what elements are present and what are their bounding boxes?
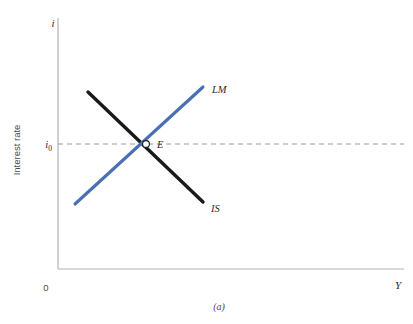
chart-canvas: i Y 0 i0 LM IS E Interest rate (a) — [0, 0, 413, 324]
i0-tick-label: i0 — [45, 139, 52, 153]
is-lm-figure: i Y 0 i0 LM IS E Interest rate (a) — [0, 0, 413, 324]
is-curve-label: IS — [210, 203, 220, 214]
y-axis-title: Interest rate — [11, 125, 22, 176]
origin-label: 0 — [43, 282, 48, 293]
equilibrium-label: E — [156, 139, 164, 150]
lm-curve[interactable] — [75, 87, 203, 204]
i0-tick-subscript: 0 — [48, 144, 52, 153]
equilibrium-marker[interactable] — [143, 141, 150, 148]
x-axis-symbol-label: Y — [395, 279, 403, 291]
figure-caption: (a) — [213, 301, 225, 313]
lm-curve-label: LM — [211, 84, 228, 95]
y-axis-symbol-label: i — [51, 17, 54, 29]
